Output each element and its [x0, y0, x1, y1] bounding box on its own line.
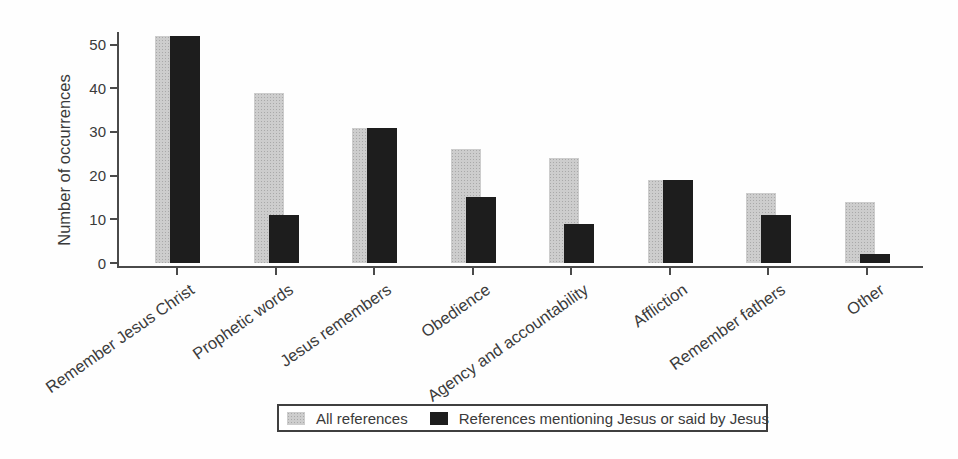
y-tick-label: 30	[72, 124, 106, 139]
x-tick-mark	[275, 268, 277, 275]
legend-label-jesus-references: References mentioning Jesus or said by J…	[459, 410, 769, 427]
bar-jesus-references	[269, 215, 299, 263]
y-tick-mark	[110, 44, 117, 46]
y-tick-mark	[110, 131, 117, 133]
y-tick-mark	[110, 175, 117, 177]
legend-swatch-jesus-references	[430, 412, 448, 425]
bar-jesus-references	[663, 180, 693, 263]
x-tick-mark	[767, 268, 769, 275]
x-tick-mark	[176, 268, 178, 275]
y-axis-line	[117, 32, 119, 267]
y-tick-label: 50	[72, 37, 106, 52]
y-tick-label: 20	[72, 168, 106, 183]
bar-jesus-references	[761, 215, 791, 263]
bar-jesus-references	[367, 128, 397, 263]
y-tick-label: 0	[72, 256, 106, 271]
bar-jesus-references	[170, 36, 200, 263]
x-tick-mark	[570, 268, 572, 275]
y-tick-mark	[110, 87, 117, 89]
y-tick-label: 10	[72, 212, 106, 227]
legend-swatch-all-references	[287, 412, 305, 425]
x-tick-mark	[472, 268, 474, 275]
bar-chart-figure: Number of occurrences 01020304050 Rememb…	[0, 0, 958, 459]
bar-jesus-references	[466, 197, 496, 263]
bar-jesus-references	[860, 254, 890, 263]
legend: All references References mentioning Jes…	[277, 404, 768, 432]
legend-label-all-references: All references	[316, 410, 408, 427]
y-axis-title: Number of occurrences	[55, 74, 74, 246]
x-tick-mark	[669, 268, 671, 275]
bar-jesus-references	[564, 224, 594, 263]
x-tick-mark	[866, 268, 868, 275]
x-axis-line	[117, 266, 923, 268]
y-tick-label: 40	[72, 81, 106, 96]
y-tick-mark	[110, 218, 117, 220]
x-tick-mark	[373, 268, 375, 275]
category-label: Prophetic words	[89, 280, 296, 432]
y-tick-mark	[110, 262, 117, 264]
